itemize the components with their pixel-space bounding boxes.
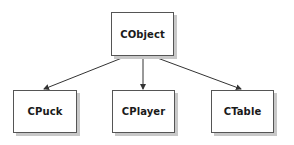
class-diagram: CObject CPuck CPlayer CTable	[0, 0, 294, 145]
node-cplayer: CPlayer	[112, 90, 175, 133]
node-cobject: CObject	[111, 12, 174, 56]
edge-cobject-to-ctable	[152, 56, 241, 89]
edge-cobject-to-cpuck	[44, 56, 127, 89]
node-ctable: CTable	[211, 90, 274, 133]
node-cpuck: CPuck	[13, 90, 77, 133]
node-label-cplayer: CPlayer	[122, 106, 165, 117]
node-label-cpuck: CPuck	[28, 106, 63, 117]
node-label-cobject: CObject	[120, 29, 165, 40]
node-label-ctable: CTable	[224, 106, 262, 117]
